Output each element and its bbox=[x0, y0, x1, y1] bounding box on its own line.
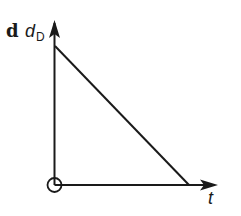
diagram-canvas: d dD t bbox=[0, 0, 241, 216]
x-axis-label: t bbox=[208, 189, 213, 207]
y-axis-label: dD bbox=[25, 22, 45, 42]
data-line bbox=[55, 46, 189, 185]
y-axis-symbol: d bbox=[25, 21, 35, 41]
y-axis-subscript: D bbox=[36, 30, 45, 44]
panel-label: d bbox=[6, 22, 19, 40]
